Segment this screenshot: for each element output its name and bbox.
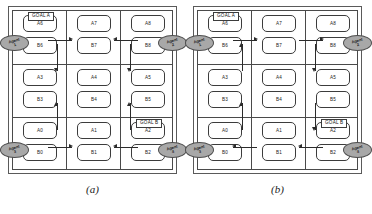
arrow-top-left-right <box>48 37 72 43</box>
caption-panel-a: (a) <box>8 183 177 195</box>
node-B3: B3 <box>23 91 57 108</box>
cell-r0c1: A7 B7 <box>252 11 305 64</box>
node-A8: A8 <box>316 15 350 32</box>
cell-r1c1: A4 B4 <box>67 65 120 117</box>
arrow-mid-right-down <box>312 44 318 71</box>
panel-b-grid-frame: A6 B6 A7 B7 A8 B8 A3 B3 A4 B4 A5 B <box>197 10 358 170</box>
node-B7: B7 <box>262 37 296 54</box>
panel-a-grid-frame: A6 B6 A7 B7 A8 B8 A3 B3 A4 B4 A5 B <box>12 10 173 170</box>
agent-2-label: Agent 2 <box>351 37 364 48</box>
goal-tag-b: GOAL B <box>321 119 347 128</box>
node-A5: A5 <box>131 69 165 86</box>
node-B4: B4 <box>77 91 111 108</box>
agent-4-label: Agent 4 <box>166 144 179 155</box>
arrow-low-right-up <box>127 103 133 130</box>
agent-4: Agent 4 <box>158 142 187 158</box>
agent-3-label: Agent 3 <box>193 144 206 155</box>
arrow-low-left-up <box>54 103 60 130</box>
node-A3: A3 <box>23 69 57 86</box>
agent-1: Agent 1 <box>0 35 29 51</box>
goal-tag-a: GOAL A <box>28 12 54 21</box>
node-B4: B4 <box>262 91 296 108</box>
agent-3: Agent 3 <box>0 142 29 158</box>
caption-panel-b: (b) <box>193 183 362 195</box>
agent-1: Agent 1 <box>185 35 214 51</box>
cell-r1c1: A4 B4 <box>252 65 305 117</box>
arrow-bottom-left-right <box>48 144 72 150</box>
agent-1-label: Agent 1 <box>8 37 21 48</box>
arrow-bottom-left-left <box>233 144 257 150</box>
arrow-mid-left-up <box>239 44 245 71</box>
arrow-low-right-down <box>312 103 318 130</box>
node-A0: A0 <box>208 122 242 139</box>
arrow-mid-left-down <box>54 44 60 71</box>
node-A7: A7 <box>77 15 111 32</box>
node-B1: B1 <box>77 144 111 161</box>
arrow-mid-right-down <box>127 44 133 71</box>
agent-2-label: Agent 2 <box>166 37 179 48</box>
node-A4: A4 <box>77 69 111 86</box>
panel-a: A6 B6 A7 B7 A8 B8 A3 B3 A4 B4 A5 B <box>8 6 177 174</box>
arrow-low-left-up <box>239 103 245 130</box>
node-B7: B7 <box>77 37 111 54</box>
goal-tag-b: GOAL B <box>136 119 162 128</box>
arrow-top-left-right <box>233 37 257 43</box>
node-A8: A8 <box>131 15 165 32</box>
agent-3: Agent 3 <box>185 142 214 158</box>
node-B1: B1 <box>262 144 296 161</box>
agent-1-label: Agent 1 <box>193 37 206 48</box>
arrow-top-right-right <box>299 37 323 43</box>
node-B5: B5 <box>131 91 165 108</box>
node-B3: B3 <box>208 91 242 108</box>
agent-2: Agent 2 <box>343 35 372 51</box>
agent-4: Agent 4 <box>343 142 372 158</box>
node-A0: A0 <box>23 122 57 139</box>
agent-2: Agent 2 <box>158 35 187 51</box>
node-A4: A4 <box>262 69 296 86</box>
node-A3: A3 <box>208 69 242 86</box>
arrow-bottom-right-left <box>299 144 323 150</box>
node-B5: B5 <box>316 91 350 108</box>
arrow-top-right-left <box>114 37 138 43</box>
arrow-bottom-right-left <box>114 144 138 150</box>
agent-3-label: Agent 3 <box>8 144 21 155</box>
panel-b: A6 B6 A7 B7 A8 B8 A3 B3 A4 B4 A5 B <box>193 6 362 174</box>
node-A1: A1 <box>262 122 296 139</box>
node-A1: A1 <box>77 122 111 139</box>
agent-4-label: Agent 4 <box>351 144 364 155</box>
node-A5: A5 <box>316 69 350 86</box>
goal-tag-a: GOAL A <box>213 12 239 21</box>
node-A7: A7 <box>262 15 296 32</box>
